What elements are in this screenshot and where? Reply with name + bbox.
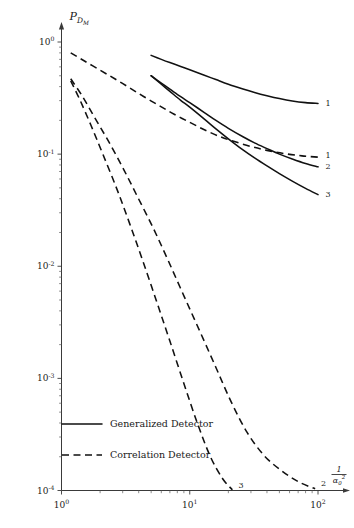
x-axis-title-denominator: α02	[333, 474, 346, 486]
x-axis-title-numerator: 1	[336, 465, 341, 474]
tick-label: 10-4	[37, 484, 55, 496]
tick-label: 101	[182, 498, 197, 510]
curve-end-label: 1	[326, 151, 331, 160]
tick-label: 100	[54, 498, 69, 510]
y-axis-title: PDM	[69, 10, 90, 26]
legend-label: Correlation Detector	[110, 449, 211, 460]
tick-label: 10-1	[37, 148, 55, 160]
legend-label: Generalized Detector	[110, 418, 213, 429]
curve-end-label: 3	[238, 481, 243, 490]
tick-label: 10-2	[37, 260, 55, 272]
figure-container: 123123 10010-110-210-310-4100101102 Gene…	[0, 0, 354, 528]
y-axis-arrow	[59, 22, 64, 30]
tick-label: 100	[39, 35, 54, 47]
series-curve	[151, 76, 318, 167]
tick-labels: 10010-110-210-310-4100101102	[37, 35, 326, 510]
axis-titles: PDM1α02	[69, 10, 347, 486]
tick-label: 102	[310, 498, 325, 510]
curve-end-label: 2	[326, 162, 331, 171]
curve-end-label: 2	[321, 479, 326, 488]
x-axis-arrow	[343, 488, 350, 493]
legend: Generalized DetectorCorrelation Detector	[62, 418, 213, 460]
log-log-plot: 123123 10010-110-210-310-4100101102 Gene…	[0, 0, 354, 528]
tick-label: 10-3	[37, 372, 55, 384]
curve-end-label: 1	[326, 99, 331, 108]
curve-end-label: 3	[326, 190, 331, 199]
